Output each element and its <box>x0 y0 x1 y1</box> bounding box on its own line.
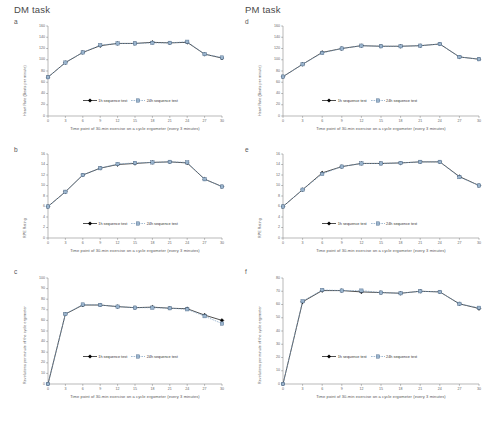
data-point <box>379 45 382 48</box>
data-point <box>186 308 189 311</box>
data-point <box>399 45 402 48</box>
data-point <box>116 162 119 165</box>
x-axis-label: Time point of 30-min exercise on a cycle… <box>283 248 479 253</box>
data-point <box>321 288 324 291</box>
legend-entry-1h: 1h sequence test <box>322 221 366 226</box>
data-point <box>46 205 49 208</box>
legend: 1h sequence test 24h sequence test <box>322 354 417 359</box>
data-point <box>419 160 422 163</box>
data-point <box>168 41 171 44</box>
panel-d: d020406080100120140160036912151821242730… <box>245 18 495 146</box>
legend-label-1h: 1h sequence test <box>338 222 367 226</box>
legend: 1h sequence test 24h sequence test <box>322 221 417 226</box>
data-point <box>46 382 49 385</box>
series-line-1 <box>283 44 479 77</box>
x-axis-label: Time point of 30-min exercise on a cycle… <box>48 248 222 253</box>
legend-label-24h: 24h sequence test <box>147 99 178 103</box>
legend-label-1h: 1h sequence test <box>338 99 367 103</box>
data-point <box>340 289 343 292</box>
legend-entry-24h: 24h sequence test <box>371 98 418 103</box>
data-point <box>477 306 480 309</box>
data-point <box>458 55 461 58</box>
data-point <box>203 314 206 317</box>
legend-marker-square-icon <box>131 354 145 359</box>
legend-marker-diamond-icon <box>83 354 97 359</box>
data-point <box>81 173 84 176</box>
data-point <box>220 185 223 188</box>
data-point <box>438 42 441 45</box>
data-point <box>64 61 67 64</box>
legend-marker-diamond-icon <box>322 354 336 359</box>
data-point <box>301 188 304 191</box>
legend: 1h sequence test 24h sequence test <box>83 221 178 226</box>
legend-entry-1h: 1h sequence test <box>322 98 366 103</box>
legend-marker-diamond-icon <box>83 221 97 226</box>
data-point <box>360 44 363 47</box>
legend-label-1h: 1h sequence test <box>98 355 127 359</box>
legend-entry-1h: 1h sequence test <box>83 221 127 226</box>
data-point <box>477 57 480 60</box>
legend-marker-square-icon <box>371 354 385 359</box>
data-point <box>168 160 171 163</box>
y-axis-label: RPE Rating <box>23 218 27 238</box>
y-axis-label: RPE Rating <box>258 218 262 238</box>
panel-c: c010203040506070809010003691215182124273… <box>14 268 236 418</box>
data-point <box>281 382 284 385</box>
data-point <box>340 165 343 168</box>
data-point <box>151 161 154 164</box>
series-line-1 <box>48 162 222 207</box>
panel-f: f01020304050607080036912151821242730Revo… <box>245 268 495 418</box>
series-line-1 <box>283 291 479 384</box>
legend-entry-1h: 1h sequence test <box>83 354 127 359</box>
y-axis-label: Heart Rate (Beats per minute) <box>258 65 262 116</box>
series-line-2 <box>48 162 222 207</box>
legend-entry-1h: 1h sequence test <box>83 98 127 103</box>
data-point <box>321 172 324 175</box>
data-point <box>360 289 363 292</box>
legend-marker-square-icon <box>131 221 145 226</box>
data-point <box>379 291 382 294</box>
legend-marker-square-icon <box>371 98 385 103</box>
data-point <box>203 178 206 181</box>
series-line-1 <box>283 162 479 207</box>
data-point <box>99 166 102 169</box>
column-title-dm: DM task <box>14 4 50 15</box>
data-point <box>438 160 441 163</box>
data-point <box>133 42 136 45</box>
legend-label-1h: 1h sequence test <box>98 99 127 103</box>
legend-entry-24h: 24h sequence test <box>131 354 178 359</box>
data-point <box>419 44 422 47</box>
legend: 1h sequence test 24h sequence test <box>83 98 178 103</box>
series-line-1 <box>48 305 222 384</box>
data-point <box>458 302 461 305</box>
data-point <box>151 41 154 44</box>
legend-marker-diamond-icon <box>322 98 336 103</box>
data-point <box>399 161 402 164</box>
column-title-pm: PM task <box>245 4 281 15</box>
x-axis-label: Time point of 30-min exercise on a cycle… <box>48 394 222 399</box>
x-axis-label: Time point of 30-min exercise on a cycle… <box>283 126 479 131</box>
legend: 1h sequence test 24h sequence test <box>83 354 178 359</box>
y-axis-label: Revolutions per minute of the cycle ergo… <box>23 306 27 384</box>
data-point <box>281 75 284 78</box>
data-point <box>116 42 119 45</box>
legend-label-1h: 1h sequence test <box>338 355 367 359</box>
data-point <box>64 312 67 315</box>
data-point <box>116 305 119 308</box>
series-line-2 <box>283 44 479 77</box>
data-point <box>301 63 304 66</box>
data-point <box>99 303 102 306</box>
data-point <box>203 52 206 55</box>
legend-marker-square-icon <box>131 98 145 103</box>
legend-label-24h: 24h sequence test <box>147 222 178 226</box>
data-point <box>81 303 84 306</box>
data-point <box>168 307 171 310</box>
panel-a: a020406080100120140160036912151821242730… <box>14 18 236 146</box>
y-axis-label: Revolutions per minute of the cycle ergo… <box>258 306 262 384</box>
data-point <box>99 43 102 46</box>
data-point <box>419 290 422 293</box>
series-line-2 <box>283 162 479 207</box>
data-point <box>220 56 223 59</box>
data-point <box>81 51 84 54</box>
legend: 1h sequence test 24h sequence test <box>322 98 417 103</box>
